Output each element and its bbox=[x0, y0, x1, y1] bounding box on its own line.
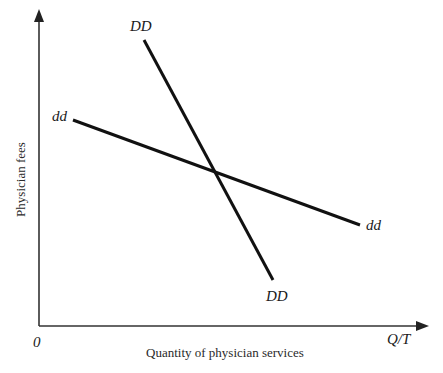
x-axis-end-label: Q/T bbox=[387, 332, 410, 347]
origin-label: 0 bbox=[33, 335, 41, 350]
curve-DD-label-bottom: DD bbox=[266, 289, 288, 304]
y-axis-arrowhead-icon bbox=[34, 9, 44, 22]
diagram-canvas bbox=[0, 0, 443, 373]
curve-dd-label-right: dd bbox=[366, 218, 381, 233]
demand-curves-diagram: DD DD dd dd 0 Q/T Quantity of physician … bbox=[0, 0, 443, 373]
x-axis-title: Quantity of physician services bbox=[146, 346, 304, 359]
curve-dd-label-left: dd bbox=[52, 109, 67, 124]
x-axis bbox=[39, 321, 429, 331]
curve-DD-line bbox=[144, 40, 273, 280]
y-axis bbox=[34, 9, 44, 326]
curve-dd-line bbox=[73, 120, 360, 225]
y-axis-title: Physician fees bbox=[14, 135, 27, 225]
curve-DD-label-top: DD bbox=[130, 19, 152, 34]
x-axis-arrowhead-icon bbox=[416, 321, 429, 331]
